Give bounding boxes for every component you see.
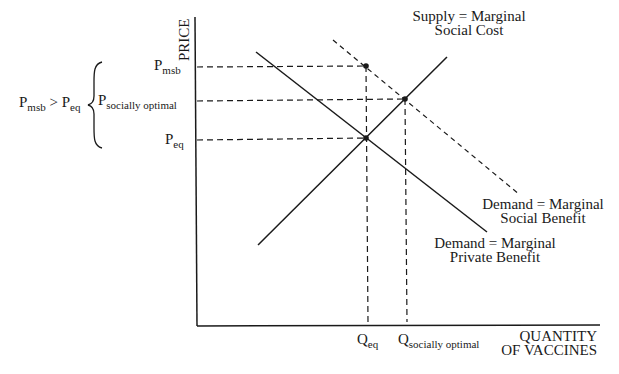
supply-curve	[258, 57, 447, 245]
x-axis	[197, 325, 600, 326]
price-comparison-label: Pmsb > Peq	[19, 95, 80, 110]
msb-point	[363, 63, 369, 69]
y-axis-label: PRICE	[176, 18, 193, 61]
demand-msb-label: Demand = Marginal Social Benefit	[478, 197, 608, 225]
p-eq-guide	[197, 138, 366, 140]
demand-mpb-curve	[256, 52, 487, 232]
supply-curve-label: Supply = Marginal Social Cost	[404, 9, 534, 37]
p-msb-guide	[197, 66, 366, 67]
socially-optimal-point	[402, 96, 408, 102]
demand-mpb-label: Demand = Marginal Private Benefit	[430, 236, 560, 264]
q-socially-optimal-label: Qsocially optimal	[398, 332, 479, 347]
diagram-canvas	[0, 0, 619, 374]
q-socially-optimal-guide	[405, 99, 407, 322]
demand-msb-curve	[333, 40, 520, 195]
x-axis-label: QUANTITY OF VACCINES	[497, 329, 597, 357]
equilibrium-point	[363, 135, 369, 141]
p-socially-optimal-guide	[197, 99, 405, 101]
y-axis	[195, 17, 197, 326]
curly-brace-icon	[84, 60, 114, 150]
p-msb-label: Pmsb	[154, 58, 181, 73]
q-eq-guide	[366, 66, 368, 323]
q-eq-label: Qeq	[357, 332, 378, 347]
p-eq-label: Peq	[165, 132, 184, 147]
